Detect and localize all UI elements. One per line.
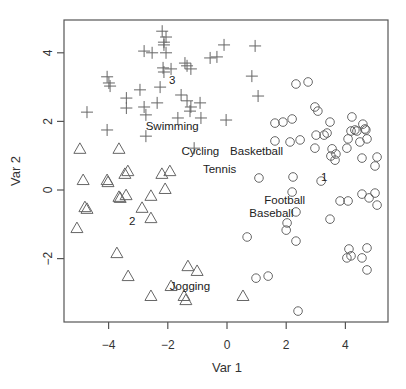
circle-marker [326, 118, 335, 127]
y-axis-title: Var 2 [8, 156, 23, 186]
y-tick-label: 2 [41, 118, 55, 125]
triangle-marker [156, 168, 168, 179]
plus-marker [158, 39, 170, 51]
point-annotation: Football [264, 194, 305, 206]
plus-marker [252, 90, 264, 102]
plus-marker [134, 84, 146, 96]
triangle-marker [113, 143, 125, 154]
triangle-marker [145, 212, 157, 223]
scatter-chart: −4−2024 −2024 SwimmingCyclingBasketballT… [0, 0, 406, 389]
plus-marker [175, 89, 187, 101]
plus-marker [138, 45, 150, 57]
plus-marker [120, 102, 132, 114]
triangle-marker [180, 294, 192, 305]
triangle-marker [122, 270, 134, 281]
circle-marker [255, 174, 264, 183]
circle-marker [311, 144, 320, 153]
plus-marker [249, 40, 261, 52]
circle-marker [373, 201, 382, 210]
plus-marker [246, 70, 258, 82]
point-annotation: Tennis [203, 163, 236, 175]
point-annotation: 2 [129, 215, 135, 227]
plus-marker [104, 80, 116, 92]
plus-marker [154, 81, 166, 93]
circle-marker [371, 162, 380, 171]
circle-marker [292, 237, 301, 246]
circle-marker [271, 119, 280, 128]
plus-marker [160, 47, 172, 59]
plus-marker [220, 114, 232, 126]
point-annotation: Baseball [249, 207, 293, 219]
triangle-marker [101, 174, 113, 185]
x-axis-title: Var 1 [212, 360, 242, 375]
triangle-marker [182, 260, 194, 271]
plus-marker [138, 101, 150, 113]
plus-marker [179, 57, 191, 69]
circle-marker [336, 197, 345, 206]
point-annotation: Jogging [170, 280, 210, 292]
triangle-marker [237, 290, 249, 301]
circle-marker [326, 215, 335, 224]
point-annotation: 1 [321, 171, 327, 183]
plus-marker [140, 109, 152, 121]
circle-marker [363, 266, 372, 275]
circle-marker [365, 194, 374, 203]
x-tick-label: 0 [224, 338, 231, 352]
circle-marker [279, 118, 288, 127]
plus-marker [211, 51, 223, 63]
triangle-marker [111, 247, 123, 258]
triangle-marker [77, 174, 89, 185]
x-axis: −4−2024 [102, 322, 349, 352]
triangle-marker [136, 202, 148, 213]
circle-marker [371, 189, 380, 198]
circle-marker [348, 113, 357, 122]
annotations: SwimmingCyclingBasketballTennisFootballB… [129, 74, 327, 292]
y-tick-label: 4 [41, 49, 55, 56]
plus-marker [101, 71, 113, 83]
plus-marker [151, 97, 163, 109]
circle-marker [252, 274, 261, 283]
plus-marker [146, 47, 158, 59]
circle-marker [363, 244, 372, 253]
y-tick-label: −2 [41, 251, 55, 265]
circle-marker [288, 115, 297, 124]
circle-marker [304, 78, 313, 87]
triangle-marker [74, 143, 86, 154]
point-annotation: Cycling [182, 145, 220, 157]
circle-marker [289, 173, 298, 182]
x-tick-label: 4 [342, 338, 349, 352]
plus-marker [101, 124, 113, 136]
plus-marker [218, 39, 230, 51]
circle-marker [358, 254, 367, 263]
y-axis: −2024 [41, 49, 64, 265]
circle-marker [363, 135, 372, 144]
circle-marker [323, 129, 332, 138]
triangle-marker [71, 222, 83, 233]
plus-marker [81, 106, 93, 118]
plus-marker [204, 52, 216, 64]
triangle-marker [159, 183, 171, 194]
circle-marker [264, 272, 273, 281]
triangle-marker [145, 290, 157, 301]
circle-marker [343, 144, 352, 153]
circle-marker [243, 233, 252, 242]
point-annotation: Swimming [146, 120, 199, 132]
triangle-marker [145, 190, 157, 201]
circle-marker [294, 307, 303, 316]
x-tick-label: −2 [161, 338, 175, 352]
x-tick-label: 2 [283, 338, 290, 352]
circle-marker [312, 131, 321, 140]
circle-marker [292, 80, 301, 89]
circle-marker [296, 136, 305, 145]
point-annotation: 3 [169, 74, 175, 86]
circle-marker [373, 153, 382, 162]
circle-marker [358, 154, 367, 163]
circle-marker [344, 197, 353, 206]
circle-marker [286, 138, 295, 147]
circle-marker [320, 131, 329, 140]
y-tick-label: 0 [41, 186, 55, 193]
point-annotation: Basketball [230, 145, 283, 157]
plus-marker [103, 77, 115, 89]
circle-marker [344, 135, 353, 144]
x-tick-label: −4 [102, 338, 116, 352]
